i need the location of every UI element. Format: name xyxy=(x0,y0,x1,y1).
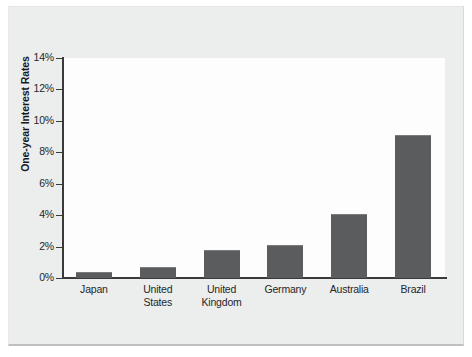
y-tick-mark xyxy=(56,89,63,90)
y-tick-label: 4% xyxy=(8,208,54,220)
y-tick-label: 0% xyxy=(8,271,54,283)
x-category-label: UnitedKingdom xyxy=(190,283,254,308)
bar xyxy=(395,135,431,278)
y-tick-mark xyxy=(56,278,63,279)
x-category-label: Japan xyxy=(62,283,126,296)
bar xyxy=(204,250,240,278)
y-tick-mark xyxy=(56,247,63,248)
x-category-label: UnitedStates xyxy=(126,283,190,308)
bar-top-highlight xyxy=(204,250,240,251)
bar-top-highlight xyxy=(331,214,367,215)
bar xyxy=(76,272,112,278)
y-tick-label: 14% xyxy=(8,51,54,63)
bar-top-highlight xyxy=(395,135,431,136)
y-tick-label: 2% xyxy=(8,240,54,252)
y-tick-label: 6% xyxy=(8,177,54,189)
x-category-label: Brazil xyxy=(381,283,445,296)
bar xyxy=(267,245,303,278)
y-tick-label: 12% xyxy=(8,82,54,94)
bar-top-highlight xyxy=(76,272,112,273)
y-tick-mark xyxy=(56,152,63,153)
bar-top-highlight xyxy=(267,245,303,246)
y-tick-mark xyxy=(56,58,63,59)
x-category-label: Germany xyxy=(254,283,318,296)
y-tick-label: 10% xyxy=(8,114,54,126)
y-axis-tick-labels: 0%2%4%6%8%10%12%14% xyxy=(0,0,54,357)
bar-top-highlight xyxy=(140,267,176,268)
y-tick-mark xyxy=(56,121,63,122)
y-tick-mark xyxy=(56,184,63,185)
y-tick-label: 8% xyxy=(8,145,54,157)
bar xyxy=(140,267,176,278)
x-axis-line xyxy=(62,277,447,279)
bar-chart-figure: One-year Interest Rates 0%2%4%6%8%10%12%… xyxy=(0,0,472,357)
bar xyxy=(331,214,367,278)
y-tick-mark xyxy=(56,215,63,216)
x-category-label: Australia xyxy=(317,283,381,296)
plot-area xyxy=(62,58,445,278)
